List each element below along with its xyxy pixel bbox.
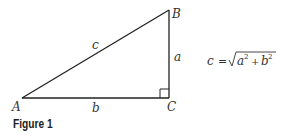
triangle (22, 10, 169, 98)
formula-lhs: c (207, 54, 214, 68)
side-c-hypotenuse (22, 10, 169, 98)
right-angle-marker (160, 89, 169, 98)
vertex-label-a: A (11, 100, 21, 114)
vertex-label-b: B (171, 7, 181, 21)
right-triangle-diagram: A B C c a b c = a 2 + b 2 (0, 0, 288, 136)
formula-exp-b: 2 (268, 53, 272, 61)
side-label-a: a (174, 50, 181, 64)
figure-caption: Figure 1 (13, 117, 53, 131)
side-label-c: c (92, 38, 99, 52)
side-label-b: b (92, 101, 100, 115)
formula-plus: + (251, 56, 259, 67)
formula-equals: = (218, 55, 227, 68)
formula-exp-a: 2 (244, 53, 248, 61)
pythagorean-formula: c = a 2 + b 2 (207, 52, 276, 68)
vertex-label-c: C (167, 100, 176, 114)
